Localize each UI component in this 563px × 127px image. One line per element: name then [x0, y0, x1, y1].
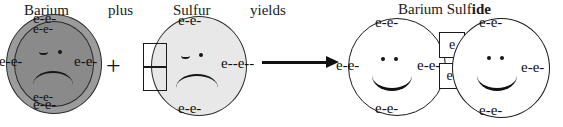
barium-ion-left-eye-icon	[381, 57, 385, 61]
sulfide-ion-right-eye-icon	[500, 56, 504, 60]
barium-outer-electrons-left: e-e-	[0, 54, 22, 69]
sulfur-left-eye-wink-icon	[181, 52, 190, 59]
barium-left-eye-wink-icon	[39, 48, 48, 55]
product-title-plain: Barium Sulf	[398, 1, 472, 17]
ionic-bonding-diagram: Barium e-e- e-e- e-e- e-e- e-e- e-e- plu…	[0, 0, 563, 127]
sulfide-ion-electrons-top: e-e-	[479, 15, 502, 30]
sulfide-ion-left-eye-icon	[487, 56, 491, 60]
barium-ion-electrons-left: e-e-	[336, 58, 359, 73]
product-title: Barium Sulfide	[398, 2, 491, 17]
barium-outer-electrons-right: e-e-	[74, 54, 97, 69]
yields-word-label: yields	[250, 3, 286, 18]
barium-inner-electrons-top: e-e-	[33, 22, 53, 35]
barium-inner-electrons-bottom: e-e-	[33, 90, 53, 103]
sulfur-electrons-right: e--e--	[221, 56, 254, 71]
sulfur-empty-slot-top	[143, 43, 167, 67]
barium-ion-electrons-right: e-e-	[417, 58, 440, 73]
sulfide-ion-electrons-bottom: e-e-	[479, 103, 502, 118]
plus-symbol: +	[106, 53, 121, 79]
sulfur-right-eye-icon	[199, 53, 203, 57]
yields-arrow-shaft	[262, 61, 328, 64]
sulfur-electrons-top: e-e-	[178, 13, 201, 28]
barium-ion-right-eye-icon	[394, 57, 398, 61]
sulfur-electrons-bottom: e-e-	[178, 101, 201, 116]
barium-right-eye-icon	[58, 50, 62, 54]
sulfur-empty-slot-bottom	[143, 67, 167, 91]
sulfide-ion-electrons-right: e-e-	[521, 60, 544, 75]
barium-ion-electrons-top: e-e-	[375, 15, 398, 30]
plus-word-label: plus	[108, 3, 133, 18]
barium-ion-electrons-bottom: e-e-	[375, 101, 398, 116]
